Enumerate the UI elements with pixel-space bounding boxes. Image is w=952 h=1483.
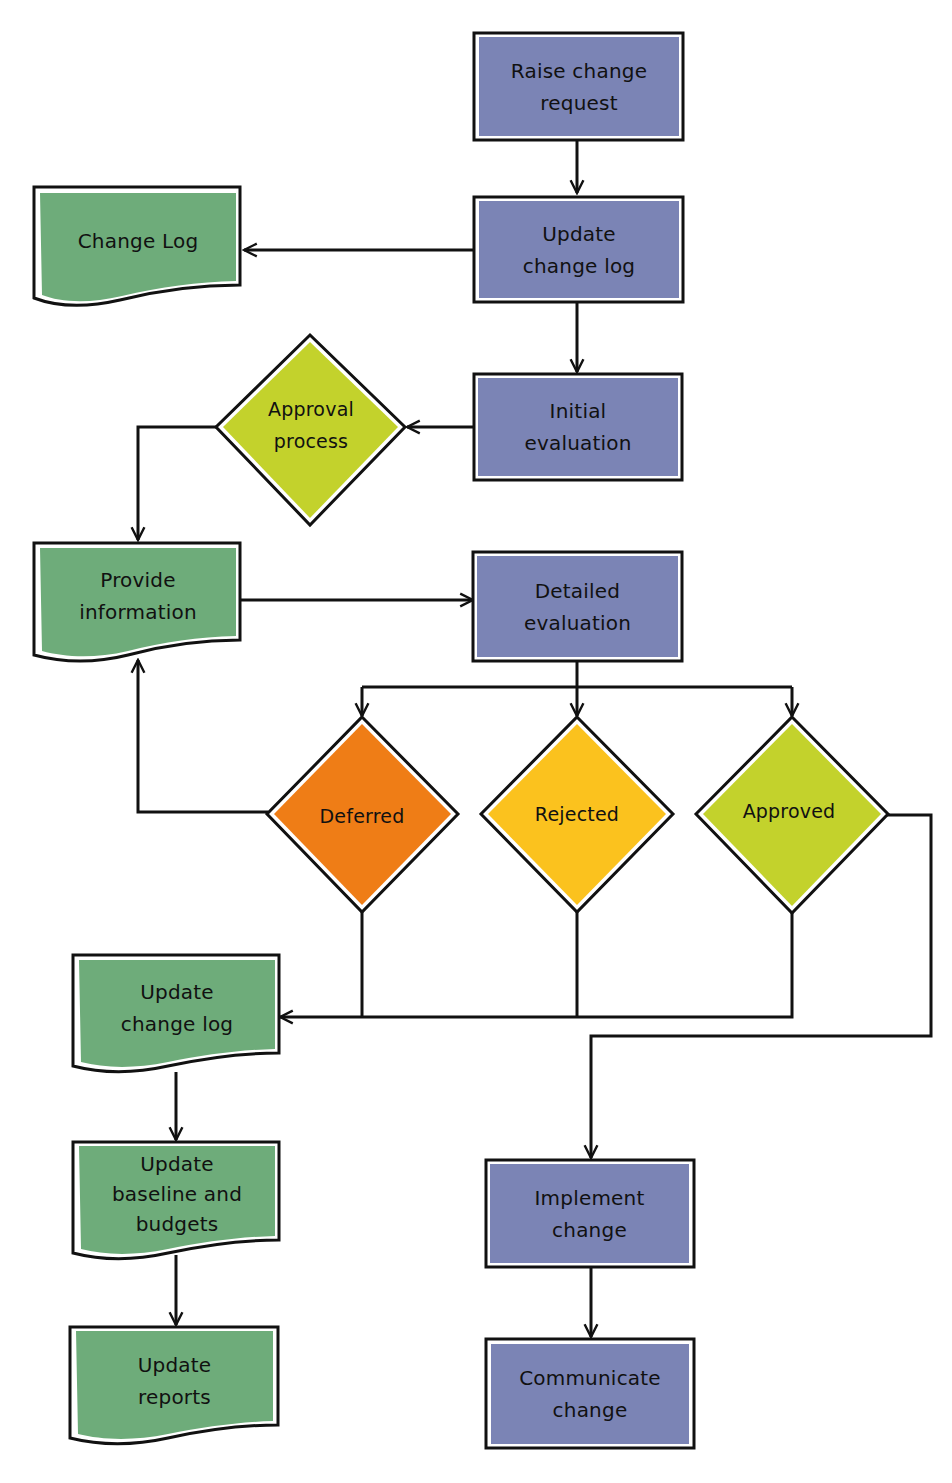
node-initial-evaluation[interactable] xyxy=(474,374,682,480)
edge-deferred-to-provide-info xyxy=(138,660,268,812)
node-provide-information[interactable] xyxy=(34,543,240,661)
node-update-baseline-budgets[interactable] xyxy=(73,1142,279,1259)
node-update-reports[interactable] xyxy=(70,1327,278,1444)
node-implement-change[interactable] xyxy=(486,1160,694,1267)
node-deferred[interactable] xyxy=(267,717,458,912)
edge-approval-to-provide-info xyxy=(138,427,216,540)
document-nodes xyxy=(34,187,279,1444)
node-detailed-evaluation[interactable] xyxy=(473,552,682,661)
node-update-change-log-top[interactable] xyxy=(474,197,683,302)
node-change-log[interactable] xyxy=(34,187,240,305)
node-communicate-change[interactable] xyxy=(486,1339,694,1448)
node-approved[interactable] xyxy=(696,717,888,913)
node-approval-process[interactable] xyxy=(216,335,405,525)
node-raise-change-request[interactable] xyxy=(474,33,683,140)
node-update-change-log-bottom[interactable] xyxy=(73,955,279,1072)
flowchart-canvas xyxy=(0,0,952,1483)
node-rejected[interactable] xyxy=(481,717,673,912)
